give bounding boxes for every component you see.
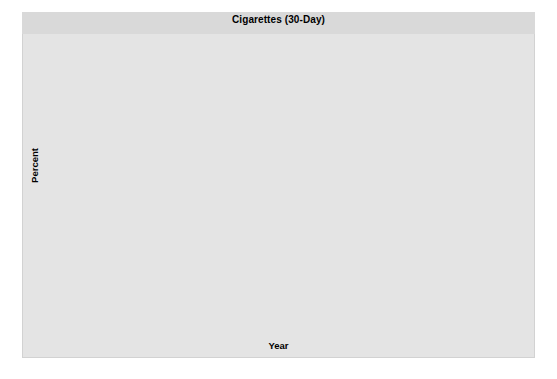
chart-title: Cigarettes (30-Day) [22, 14, 535, 25]
y-axis-label: Percent [29, 126, 40, 206]
chart-panel [22, 12, 535, 358]
chart-figure: Cigarettes (30-Day) Percent Year 0102030… [0, 0, 557, 379]
x-axis-label: Year [22, 340, 535, 351]
